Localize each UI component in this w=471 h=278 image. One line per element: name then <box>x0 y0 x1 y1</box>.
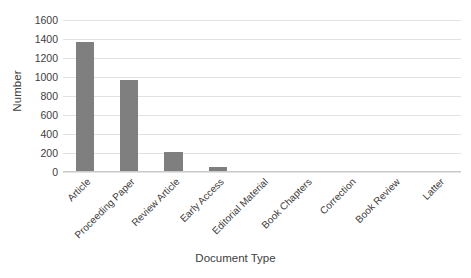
x-axis-title: Document Type <box>0 252 471 264</box>
y-tick-label: 800 <box>40 91 58 102</box>
bars-layer <box>63 20 461 172</box>
bar-slot <box>417 20 461 172</box>
plot-area <box>63 20 461 172</box>
bar[interactable] <box>164 152 182 172</box>
x-tick-slot: Book Review <box>373 174 417 242</box>
bar-slot <box>240 20 284 172</box>
bar-slot <box>284 20 328 172</box>
y-axis-title-text: Number <box>11 70 23 112</box>
bar-slot <box>328 20 372 172</box>
y-tick-label: 1000 <box>35 72 58 83</box>
bar-chart: Number 02004006008001000120014001600 Art… <box>0 0 471 278</box>
bar-slot <box>151 20 195 172</box>
x-tick-slot: Latter <box>417 174 461 242</box>
bar-slot <box>63 20 107 172</box>
gridline <box>63 172 461 173</box>
x-tick-label: Latter <box>421 176 447 202</box>
y-tick-label: 200 <box>40 148 58 159</box>
y-axis-title: Number <box>6 0 28 182</box>
bar[interactable] <box>76 42 94 172</box>
bar-slot <box>373 20 417 172</box>
bar-slot <box>107 20 151 172</box>
y-tick-label: 1200 <box>35 53 58 64</box>
bar[interactable] <box>120 80 138 172</box>
y-tick-label: 600 <box>40 110 58 121</box>
y-tick-label: 400 <box>40 129 58 140</box>
bar-slot <box>196 20 240 172</box>
y-tick-label: 0 <box>52 167 58 178</box>
y-tick-label: 1600 <box>35 15 58 26</box>
y-tick-label: 1400 <box>35 34 58 45</box>
x-axis-tick-labels: ArticleProceeding PaperReview ArticleEar… <box>63 174 461 242</box>
x-tick-label: Article <box>65 176 92 203</box>
x-axis-baseline <box>63 171 461 172</box>
y-axis-tick-labels: 02004006008001000120014001600 <box>26 14 58 174</box>
